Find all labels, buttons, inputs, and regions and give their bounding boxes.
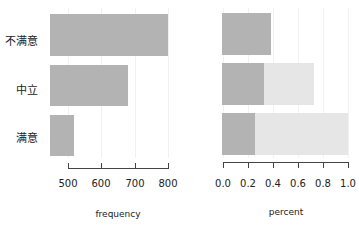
x-axis-label: percent	[236, 207, 336, 217]
x-axis	[223, 162, 349, 163]
tick	[248, 162, 249, 168]
tick-label: 700	[120, 178, 150, 189]
segment-dark	[222, 113, 255, 155]
tick-label: 1.0	[333, 178, 359, 189]
tick	[273, 162, 274, 168]
tick	[298, 162, 299, 168]
tick	[168, 163, 169, 169]
stacked-bar-neutral	[222, 63, 314, 105]
grid-line	[168, 8, 169, 158]
tick	[323, 162, 324, 168]
bar-neutral	[50, 65, 128, 106]
bar-unsatisfied	[50, 14, 168, 56]
percent-panel: 0.0 0.2 0.4 0.6 0.8 1.0 percent	[180, 0, 359, 227]
tick	[68, 163, 69, 169]
tick-label: 500	[53, 178, 83, 189]
grid-line	[348, 8, 349, 158]
tick	[348, 162, 349, 168]
segment-light	[255, 113, 348, 155]
tick	[135, 163, 136, 169]
tick-label: 800	[153, 178, 183, 189]
category-label: 满意	[0, 129, 38, 145]
tick-label: 600	[86, 178, 116, 189]
category-label: 不满意	[0, 32, 38, 48]
x-axis-label: frequency	[68, 209, 168, 219]
segment-dark	[222, 63, 264, 105]
bar-satisfied	[50, 115, 74, 156]
category-label: 中立	[0, 81, 38, 97]
frequency-panel: 不满意 中立 满意 500 600 700 800 frequency	[0, 0, 180, 227]
segment-dark	[222, 13, 271, 55]
tick	[223, 162, 224, 168]
segment-light	[264, 63, 314, 105]
stacked-bar-satisfied	[222, 113, 348, 155]
stacked-bar-unsatisfied	[222, 13, 271, 55]
tick	[101, 163, 102, 169]
x-axis	[68, 168, 169, 169]
